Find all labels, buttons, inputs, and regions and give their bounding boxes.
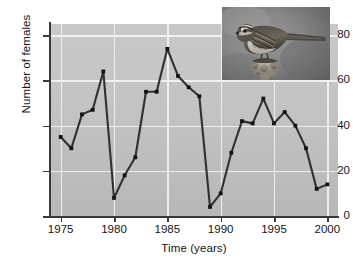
data-point-1981 xyxy=(123,173,127,177)
data-point-1982 xyxy=(133,155,137,159)
x-tick-label-1985: 1985 xyxy=(141,224,193,236)
y-tick-label-40: 40 xyxy=(310,120,350,132)
y-tick-80 xyxy=(43,35,49,37)
data-point-1999 xyxy=(315,187,319,191)
x-tick-1975 xyxy=(61,216,63,222)
x-tick-label-1990: 1990 xyxy=(195,224,247,236)
data-point-1993 xyxy=(251,121,255,125)
data-point-1985 xyxy=(165,47,169,51)
data-point-1990 xyxy=(219,192,223,196)
x-tick-label-1975: 1975 xyxy=(35,224,87,236)
y-tick-60 xyxy=(43,80,49,82)
x-tick-1980 xyxy=(114,216,116,222)
data-point-1976 xyxy=(69,146,73,150)
data-point-1986 xyxy=(176,74,180,78)
y-tick-label-20: 20 xyxy=(310,165,350,177)
data-point-1975 xyxy=(59,135,63,139)
data-point-1998 xyxy=(304,146,308,150)
x-tick-1990 xyxy=(221,216,223,222)
x-tick-label-2000: 2000 xyxy=(301,224,353,236)
song-sparrow-photograph xyxy=(222,7,330,80)
x-tick-2000 xyxy=(327,216,329,222)
data-point-1996 xyxy=(283,110,287,114)
y-tick-0 xyxy=(43,216,49,218)
data-point-1995 xyxy=(272,121,276,125)
data-point-1980 xyxy=(112,196,116,200)
data-point-1992 xyxy=(240,119,244,123)
data-point-1997 xyxy=(293,124,297,128)
y-axis-line xyxy=(49,22,51,218)
data-point-2000 xyxy=(325,182,329,186)
x-axis-line xyxy=(49,216,339,218)
y-tick-20 xyxy=(43,171,49,173)
y-tick-40 xyxy=(43,126,49,128)
data-point-1987 xyxy=(187,85,191,89)
data-point-1983 xyxy=(144,90,148,94)
data-point-1978 xyxy=(91,108,95,112)
data-point-1994 xyxy=(261,97,265,101)
data-point-1979 xyxy=(101,70,105,74)
x-tick-1995 xyxy=(274,216,276,222)
data-point-1989 xyxy=(208,205,212,209)
data-point-1988 xyxy=(197,94,201,98)
data-point-1991 xyxy=(229,151,233,155)
x-tick-1985 xyxy=(167,216,169,222)
x-tick-label-1980: 1980 xyxy=(88,224,140,236)
y-tick-label-0: 0 xyxy=(310,210,350,222)
y-axis-title: Number of females xyxy=(20,0,32,134)
x-axis-title: Time (years) xyxy=(50,242,338,254)
x-tick-label-1995: 1995 xyxy=(248,224,300,236)
data-point-1977 xyxy=(80,112,84,116)
data-point-1984 xyxy=(155,90,159,94)
